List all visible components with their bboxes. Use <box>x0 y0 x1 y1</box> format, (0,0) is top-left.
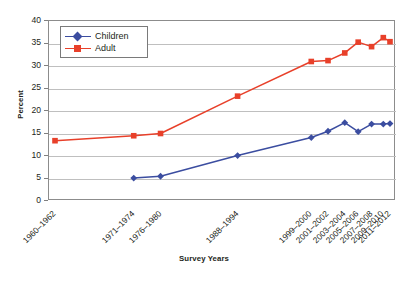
data-point-diamond <box>157 173 164 180</box>
legend-label-adult: Adult <box>95 44 116 53</box>
data-point-square <box>325 58 331 64</box>
x-axis-title: Survey Years <box>0 254 408 263</box>
legend-swatch-children <box>65 31 91 41</box>
data-point-diamond <box>130 175 137 182</box>
data-point-square <box>52 138 58 144</box>
legend-item-children: Children <box>65 30 141 42</box>
legend-item-adult: Adult <box>65 42 141 54</box>
x-tick-label: 1960–1962 <box>0 209 57 284</box>
obesity-prevalence-line-chart: Percent 0510152025303540 1960–19621971–1… <box>0 0 408 284</box>
data-point-square <box>235 93 241 99</box>
y-tick-label: 0 <box>17 196 41 205</box>
data-point-square <box>387 39 393 45</box>
x-tick-label-text: 1960–1962 <box>21 209 57 245</box>
y-tick-label: 20 <box>17 106 41 115</box>
legend-label-children: Children <box>95 32 129 41</box>
data-point-diamond <box>380 121 387 128</box>
data-point-diamond <box>387 120 394 127</box>
data-point-diamond <box>234 152 241 159</box>
square-marker-icon <box>74 45 81 52</box>
data-point-square <box>355 39 361 45</box>
data-point-square <box>369 44 375 50</box>
y-tick-label: 35 <box>17 38 41 47</box>
legend-swatch-adult <box>65 43 91 53</box>
diamond-marker-icon <box>73 31 83 41</box>
y-tick-label: 15 <box>17 128 41 137</box>
series-line-children <box>134 123 390 178</box>
data-point-square <box>131 133 137 139</box>
y-tick-label: 25 <box>17 83 41 92</box>
y-tick-label: 30 <box>17 61 41 70</box>
chart-legend: Children Adult <box>60 26 148 58</box>
x-tick-label-text: 1988–1994 <box>204 209 240 245</box>
data-point-diamond <box>368 121 375 128</box>
data-point-square <box>381 35 387 41</box>
y-tick-label: 10 <box>17 151 41 160</box>
data-point-square <box>342 50 348 56</box>
data-point-diamond <box>325 128 332 135</box>
x-tick-label: 1988–1994 <box>149 209 240 284</box>
y-tick-label: 40 <box>17 16 41 25</box>
data-point-square <box>308 59 314 65</box>
y-tick-mark <box>44 200 48 201</box>
data-point-diamond <box>308 134 315 141</box>
data-point-square <box>158 131 164 137</box>
y-tick-label: 5 <box>17 173 41 182</box>
